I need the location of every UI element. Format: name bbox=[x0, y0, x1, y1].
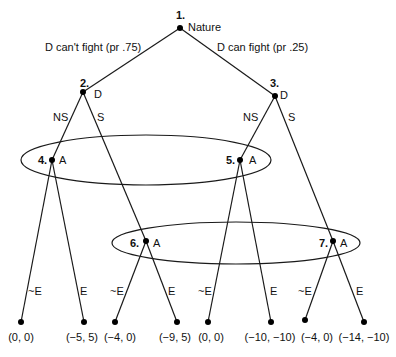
move-label-node2-ns: NS bbox=[53, 111, 68, 123]
node-7-a bbox=[330, 238, 336, 244]
move-label-node7-not-e: ~E bbox=[298, 285, 312, 297]
payoff-3: (−4, 0) bbox=[104, 331, 136, 343]
node-5-number: 5. bbox=[226, 154, 235, 166]
node-3-player: D bbox=[280, 89, 288, 101]
move-label-node3-ns: NS bbox=[243, 111, 258, 123]
edge-4-to-t2 bbox=[52, 160, 84, 322]
node-4-a bbox=[49, 157, 55, 163]
edge-2-to-6 bbox=[83, 92, 146, 241]
node-2-number: 2. bbox=[80, 77, 89, 89]
node-5-player: A bbox=[249, 154, 257, 166]
node-6-number: 6. bbox=[130, 237, 139, 249]
edge-nature-to-2 bbox=[83, 28, 180, 92]
move-label-node5-e: E bbox=[270, 285, 277, 297]
node-1-nature bbox=[177, 25, 183, 31]
terminal-node-7 bbox=[302, 317, 308, 323]
move-label-node7-e: E bbox=[356, 285, 363, 297]
move-label-node4-not-e: ~E bbox=[28, 285, 42, 297]
node-7-player: A bbox=[340, 237, 348, 249]
node-2-player: D bbox=[94, 88, 102, 100]
payoff-5: (0, 0) bbox=[198, 331, 224, 343]
edge-5-to-t6 bbox=[240, 160, 271, 322]
terminal-node-1 bbox=[18, 319, 24, 325]
node-5-a bbox=[237, 157, 243, 163]
terminal-node-4 bbox=[174, 319, 180, 325]
edge-4-to-t1 bbox=[21, 160, 52, 322]
move-label-node3-s: S bbox=[288, 111, 295, 123]
edge-5-to-t5 bbox=[208, 160, 240, 322]
move-label-d-can-fight: D can fight (pr .25) bbox=[217, 41, 308, 53]
edge-3-to-5 bbox=[240, 96, 275, 160]
edge-3-to-7 bbox=[275, 96, 333, 241]
terminal-node-8 bbox=[361, 319, 367, 325]
terminal-node-3 bbox=[112, 319, 118, 325]
node-3-number: 3. bbox=[270, 77, 279, 89]
node-6-a bbox=[143, 238, 149, 244]
node-3-d bbox=[272, 93, 278, 99]
payoff-2: (−5, 5) bbox=[66, 331, 98, 343]
payoff-1: (0, 0) bbox=[8, 331, 34, 343]
payoff-4: (−9, 5) bbox=[159, 331, 191, 343]
node-6-player: A bbox=[153, 237, 161, 249]
node-1-player: Nature bbox=[188, 21, 221, 33]
game-tree-diagram: 1. 2. 3. 4. 5. 6. 7. Nature D D A A A A … bbox=[0, 0, 396, 357]
terminal-node-6 bbox=[268, 319, 274, 325]
payoff-7: (−4, 0) bbox=[301, 331, 333, 343]
move-label-node6-not-e: ~E bbox=[110, 285, 124, 297]
node-4-number: 4. bbox=[38, 154, 47, 166]
edge-6-to-t4 bbox=[146, 241, 177, 322]
edge-nature-to-3 bbox=[180, 28, 275, 96]
edge-2-to-4 bbox=[52, 92, 83, 160]
move-label-node2-s: S bbox=[97, 111, 104, 123]
node-7-number: 7. bbox=[319, 237, 328, 249]
move-label-d-cant-fight: D can't fight (pr .75) bbox=[45, 41, 141, 53]
payoff-8: (−14, −10) bbox=[339, 331, 390, 343]
move-label-node4-e: E bbox=[80, 285, 87, 297]
terminal-node-2 bbox=[81, 319, 87, 325]
node-1-number: 1. bbox=[176, 9, 185, 21]
edge-7-to-t7 bbox=[305, 241, 333, 320]
payoff-6: (−10, −10) bbox=[245, 331, 296, 343]
node-2-d bbox=[80, 89, 86, 95]
terminal-node-5 bbox=[205, 319, 211, 325]
node-4-player: A bbox=[59, 154, 67, 166]
move-label-node5-not-e: ~E bbox=[198, 285, 212, 297]
move-label-node6-e: E bbox=[168, 285, 175, 297]
edge-6-to-t3 bbox=[115, 241, 146, 322]
edge-7-to-t8 bbox=[333, 241, 364, 322]
